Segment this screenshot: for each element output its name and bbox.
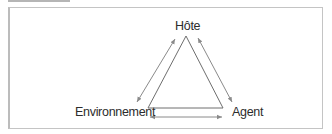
triangle bbox=[148, 36, 223, 108]
node-label-host: Hôte bbox=[175, 19, 200, 33]
node-label-agent: Agent bbox=[232, 105, 263, 119]
epidemiologic-triangle bbox=[0, 0, 332, 134]
node-label-environment: Environnement bbox=[75, 105, 155, 119]
